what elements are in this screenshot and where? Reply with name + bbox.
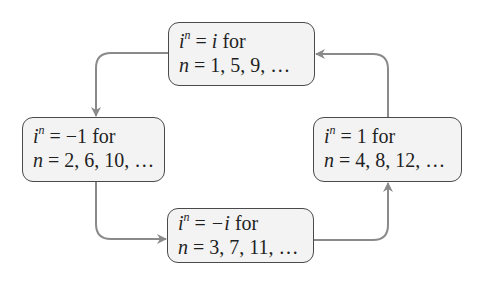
- equals: =: [43, 149, 64, 171]
- node-top-line1: in = i for: [179, 29, 314, 53]
- var-n: n: [179, 54, 189, 76]
- equals: =: [334, 149, 355, 171]
- node-right-1: in = 1 for n = 4, 8, 12, …: [313, 117, 462, 182]
- n-values: 1, 5, 9, …: [210, 54, 290, 76]
- arrow-right-to-top: [316, 54, 388, 117]
- value: −1: [66, 125, 87, 147]
- node-left-neg1: in = −1 for n = 2, 6, 10, …: [22, 117, 165, 182]
- equals: =: [45, 125, 66, 147]
- node-top-line2: n = 1, 5, 9, …: [179, 53, 314, 77]
- equals: =: [191, 30, 212, 52]
- value: 1: [357, 125, 367, 147]
- node-top-i: in = i for n = 1, 5, 9, …: [168, 22, 315, 86]
- n-values: 4, 8, 12, …: [355, 149, 445, 171]
- for-label: for: [217, 30, 245, 52]
- node-bottom-neg-i: in = −i for n = 3, 7, 11, …: [167, 208, 314, 263]
- node-right-line2: n = 4, 8, 12, …: [324, 148, 461, 172]
- n-values: 3, 7, 11, …: [209, 236, 298, 258]
- var-n: n: [324, 149, 334, 171]
- arrow-left-to-bottom: [96, 182, 166, 239]
- for-label: for: [367, 125, 395, 147]
- equals: =: [336, 125, 357, 147]
- node-right-line1: in = 1 for: [324, 124, 461, 148]
- node-left-line1: in = −1 for: [33, 124, 164, 148]
- equals: =: [188, 236, 209, 258]
- value: −i: [211, 212, 230, 234]
- for-label: for: [230, 212, 258, 234]
- node-bottom-line2: n = 3, 7, 11, …: [178, 235, 313, 259]
- node-bottom-line1: in = −i for: [178, 211, 313, 235]
- node-left-line2: n = 2, 6, 10, …: [33, 148, 164, 172]
- n-values: 2, 6, 10, …: [64, 149, 154, 171]
- equals: =: [189, 54, 210, 76]
- arrow-top-to-left: [96, 53, 168, 116]
- var-n: n: [178, 236, 188, 258]
- var-n: n: [33, 149, 43, 171]
- equals: =: [190, 212, 211, 234]
- for-label: for: [87, 125, 115, 147]
- arrow-bottom-to-right: [314, 183, 388, 240]
